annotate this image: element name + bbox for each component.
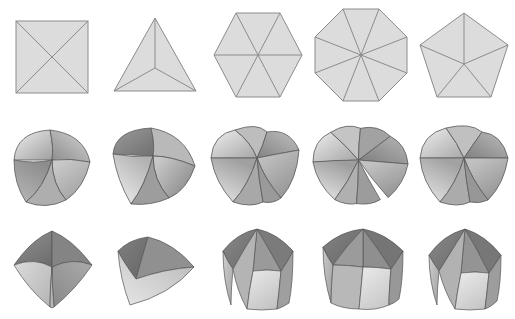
cloister-vault-triangle: Triangle <box>103 214 206 319</box>
cloister-vault-pentagon: Pentagon <box>412 214 515 319</box>
cloister-vault-square: Square <box>0 214 103 319</box>
row-groin-vaults: Square <box>0 108 515 216</box>
plan-hexagon: Hexagon <box>206 0 309 110</box>
row-cloister-vaults: Square Triangle <box>0 214 515 319</box>
groin-vault-octagon: Octagon <box>309 108 412 216</box>
plan-triangle: Triangle <box>103 0 206 110</box>
plan-square: Square <box>0 0 103 110</box>
cloister-vault-hexagon: Hexagon <box>206 214 309 319</box>
row-plan-polygons: Square Triangle <box>0 0 515 110</box>
plan-octagon: Octagon <box>309 0 412 110</box>
vault-geometry-figure: Square Triangle <box>0 0 515 319</box>
plan-pentagon: Pentagon <box>412 0 515 110</box>
groin-vault-square: Square <box>0 108 103 216</box>
groin-vault-hexagon: Hexagon <box>206 108 309 216</box>
cloister-vault-octagon: Octagon <box>309 214 412 319</box>
groin-vault-pentagon: Pentagon <box>412 108 515 216</box>
groin-vault-triangle: Triangle <box>103 108 206 216</box>
